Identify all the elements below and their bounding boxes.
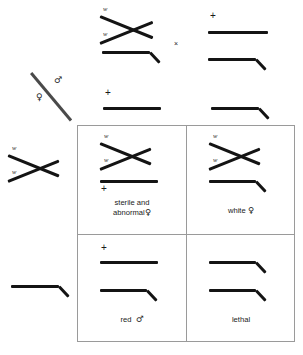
x-chromosome-icon — [208, 31, 268, 34]
cell-label-line2: abnormal♀ — [78, 208, 186, 218]
cell-label-line1: lethal — [187, 315, 295, 325]
male-symbol: ♂ — [136, 314, 144, 324]
allele-label-plus: + — [210, 11, 216, 21]
allele-label-plus: + — [105, 88, 111, 98]
punnett-cell-top-right[interactable]: w w white ♀ — [187, 126, 295, 234]
punnett-cell-top-left[interactable]: w w + sterile and abnormal♀ — [78, 126, 186, 234]
cell-label-text: red — [121, 315, 132, 324]
cell-label-text: white — [228, 206, 246, 215]
allele-label-plus: + — [101, 243, 107, 253]
punnett-cell-bottom-right[interactable]: lethal — [187, 235, 295, 343]
punnett-cell-bottom-left[interactable]: + red ♂ — [78, 235, 186, 343]
punnett-square-grid: w w + sterile and abnormal♀ w — [77, 125, 295, 342]
allele-label-w2: w — [12, 169, 16, 176]
figure-canvas: w w × + ♂ ♀ + — [0, 0, 303, 355]
female-symbol: ♀ — [248, 205, 254, 215]
male-axis-symbol: ♂ — [54, 76, 62, 85]
cell-label-line1: sterile and — [78, 198, 186, 208]
cell-label-text: abnormal — [113, 208, 145, 217]
cell-label-line1: white ♀ — [187, 206, 295, 216]
allele-label-plus: + — [101, 184, 107, 194]
x-chromosome-icon — [100, 261, 158, 264]
allele-label-w: w — [213, 133, 217, 140]
female-symbol: ♀ — [145, 207, 151, 217]
cell-label-line1: red ♂ — [78, 315, 186, 325]
female-axis-symbol: ♀ — [36, 93, 43, 102]
x-chromosome-icon — [103, 107, 161, 110]
allele-label-w: w — [104, 133, 108, 140]
allele-label-w: w — [12, 145, 16, 152]
allele-label-w2: w — [103, 31, 107, 38]
cross-symbol: × — [174, 40, 178, 47]
allele-label-w2: w — [213, 157, 217, 164]
x-chromosome-icon — [100, 180, 158, 183]
allele-label-w2: w — [104, 157, 108, 164]
allele-label-w: w — [103, 6, 107, 13]
